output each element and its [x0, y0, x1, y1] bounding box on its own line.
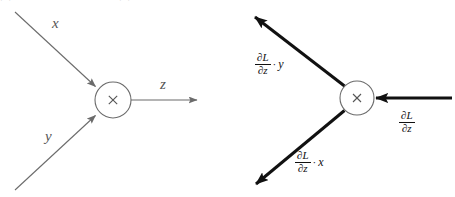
edge-grad-x-factor: x — [318, 155, 323, 170]
edge-grad-z-denominator: ∂z — [399, 123, 415, 135]
edge-grad-z-numerator: ∂L — [399, 110, 415, 123]
edge-grad-y-factor: y — [278, 57, 283, 72]
edge-grad-x-label: ∂L ∂z ·x — [295, 150, 324, 175]
forward-pass-graph — [15, 12, 197, 190]
diagram-canvas — [0, 0, 455, 197]
edge-y-label: y — [45, 128, 52, 145]
edge-grad-y-denominator: ∂z — [255, 65, 271, 77]
edge-y-arrow — [15, 116, 96, 191]
edge-grad-z-label: ∂L ∂z — [399, 110, 415, 135]
edge-grad-z-fraction: ∂L ∂z — [399, 110, 415, 135]
edge-x-label: x — [52, 15, 59, 32]
edge-grad-y-expression: ∂L ∂z ·y — [255, 52, 284, 77]
edge-grad-x-numerator: ∂L — [295, 150, 311, 163]
edge-grad-y-label: ∂L ∂z ·y — [255, 52, 284, 77]
edge-grad-z-expression: ∂L ∂z — [399, 110, 415, 135]
edge-grad-y-fraction: ∂L ∂z — [255, 52, 271, 77]
edge-z-label: z — [160, 76, 166, 93]
edge-grad-x-expression: ∂L ∂z ·x — [295, 150, 324, 175]
edge-grad-x-fraction: ∂L ∂z — [295, 150, 311, 175]
edge-grad-x-denominator: ∂z — [295, 163, 311, 175]
backward-pass-graph — [255, 17, 452, 184]
edge-grad-y-numerator: ∂L — [255, 52, 271, 65]
